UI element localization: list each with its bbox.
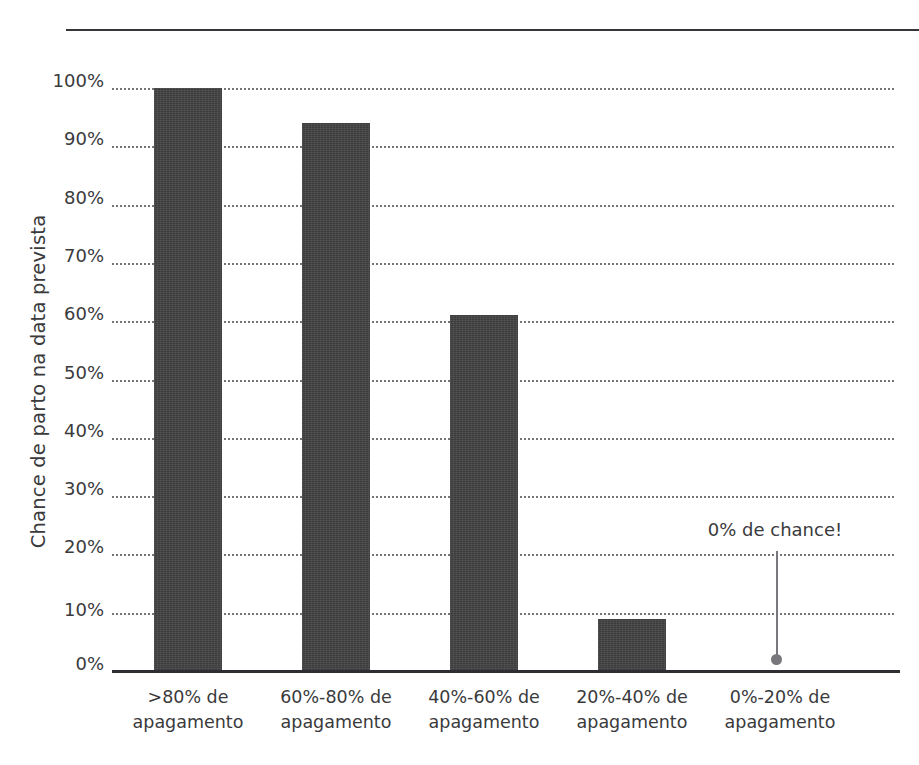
x-category-label-4: 0%-20% de apagamento <box>705 685 855 735</box>
bar-series-3 <box>598 619 666 671</box>
bar-series-0 <box>154 88 222 671</box>
gridline-70 <box>112 263 894 265</box>
annotation-marker-dot <box>771 654 782 665</box>
x-category-line1: 0%-20% de <box>730 687 830 707</box>
gridline-100 <box>112 88 894 90</box>
x-category-line1: 60%-80% de <box>280 687 392 707</box>
y-tick-label: 0% <box>26 653 104 674</box>
y-tick-label: 10% <box>26 599 104 620</box>
gridline-90 <box>112 146 894 148</box>
x-category-line2: apagamento <box>261 710 411 735</box>
bar-series-1 <box>302 123 370 671</box>
y-tick-label: 70% <box>26 245 104 266</box>
x-category-line2: apagamento <box>705 710 855 735</box>
x-axis-line <box>112 670 900 673</box>
x-category-label-2: 40%-60% de apagamento <box>409 685 559 735</box>
y-tick-label: 20% <box>26 536 104 557</box>
x-category-line2: apagamento <box>113 710 263 735</box>
gridline-80 <box>112 205 894 207</box>
y-tick-label: 30% <box>26 478 104 499</box>
x-category-label-0: >80% de apagamento <box>113 685 263 735</box>
y-tick-label: 90% <box>26 128 104 149</box>
x-category-line1: >80% de <box>148 687 229 707</box>
annotation-leader-line <box>776 551 778 658</box>
y-tick-label: 60% <box>26 303 104 324</box>
annotation-label-zero-chance: 0% de chance! <box>690 519 860 540</box>
y-tick-label: 100% <box>26 70 104 91</box>
y-tick-label: 40% <box>26 420 104 441</box>
x-category-label-1: 60%-80% de apagamento <box>261 685 411 735</box>
x-category-line2: apagamento <box>409 710 559 735</box>
top-divider-rule <box>66 29 919 31</box>
x-category-label-3: 20%-40% de apagamento <box>557 685 707 735</box>
x-category-line1: 20%-40% de <box>576 687 688 707</box>
bar-series-2 <box>450 315 518 671</box>
x-category-line2: apagamento <box>557 710 707 735</box>
y-tick-label: 50% <box>26 362 104 383</box>
y-tick-label: 80% <box>26 187 104 208</box>
x-category-line1: 40%-60% de <box>428 687 540 707</box>
